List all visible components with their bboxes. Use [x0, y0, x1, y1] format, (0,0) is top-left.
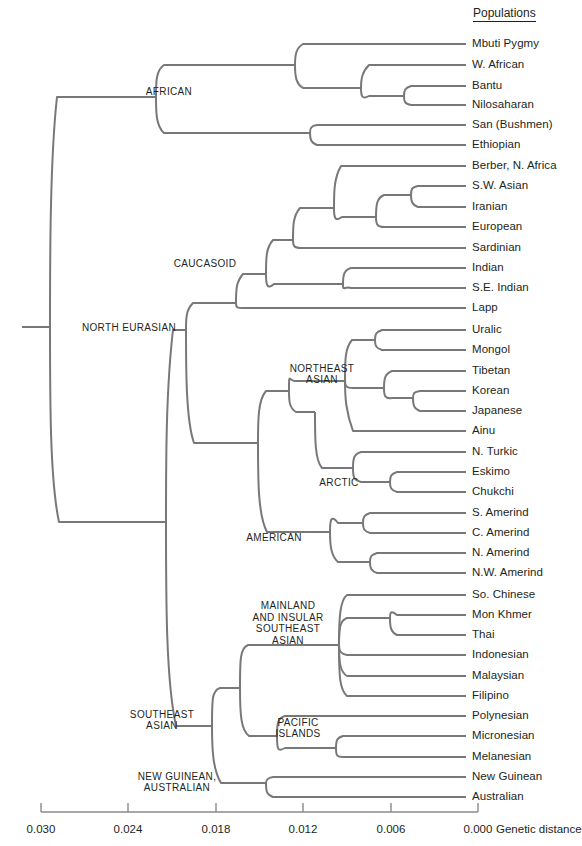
population-label: Tibetan [472, 365, 510, 377]
axis-tick-label: 0.030 [11, 823, 71, 835]
population-label: New Guinean [472, 771, 542, 783]
clade-label-line: ASIAN [82, 720, 242, 732]
population-label: N.W. Amerind [472, 567, 543, 579]
population-label: Uralic [472, 324, 502, 336]
axis-tick-label: 0.006 [361, 823, 421, 835]
population-label: Mongol [472, 344, 510, 356]
clade-label: ARCTIC [259, 477, 419, 489]
population-label: Malaysian [472, 670, 524, 682]
clade-label: NORTHEASTASIAN [242, 363, 402, 386]
clade-label: CAUCASOID [125, 258, 285, 270]
population-label: Sardinian [472, 242, 521, 254]
axis-tick-label: 0.018 [186, 823, 246, 835]
clade-label-line: ASIAN [242, 374, 402, 386]
population-label: So. Chinese [472, 589, 535, 601]
population-label: S.E. Indian [472, 282, 529, 294]
clade-label: AMERICAN [194, 532, 354, 544]
clade-label-line: AFRICAN [89, 86, 249, 98]
clade-label-line: NORTH EURASIAN [49, 322, 209, 334]
population-label: Melanesian [472, 751, 531, 763]
population-label: S. Amerind [472, 507, 529, 519]
axis-caption: Genetic distance [496, 823, 582, 835]
clade-label-line: ARCTIC [259, 477, 419, 489]
clade-label: AFRICAN [89, 86, 249, 98]
clade-label-line: PACIFIC [218, 717, 378, 729]
population-label: Micronesian [472, 730, 535, 742]
clade-label: NEW GUINEAN,AUSTRALIAN [97, 771, 257, 794]
population-label: Nilosaharan [472, 99, 534, 111]
clade-label: SOUTHEASTASIAN [82, 709, 242, 732]
population-label: Polynesian [472, 710, 529, 722]
axis-tick-label: 0.024 [98, 823, 158, 835]
clade-label-line: AND INSULAR [208, 612, 368, 624]
population-label: Filipino [472, 690, 509, 702]
clade-label-line: ASIAN [208, 635, 368, 647]
population-label: S.W. Asian [472, 180, 528, 192]
clade-label-line: SOUTHEAST [208, 623, 368, 635]
clade-label-line: SOUTHEAST [82, 709, 242, 721]
population-label: Australian [472, 791, 524, 803]
population-label: Mon Khmer [472, 609, 532, 621]
clade-label-line: CAUCASOID [125, 258, 285, 270]
clade-label-line: NORTHEAST [242, 363, 402, 375]
population-label: San (Bushmen) [472, 119, 553, 131]
clade-label: NORTH EURASIAN [49, 322, 209, 334]
population-label: Indian [472, 262, 504, 274]
clade-label-line: NEW GUINEAN, [97, 771, 257, 783]
population-label: N. Turkic [472, 446, 518, 458]
populations-column-header: Populations [473, 6, 536, 22]
population-label: W. African [472, 59, 524, 71]
population-label: Indonesian [472, 649, 529, 661]
clade-label-line: MAINLAND [208, 600, 368, 612]
population-label: European [472, 221, 522, 233]
population-label: Bantu [472, 80, 502, 92]
population-label: Chukchi [472, 486, 514, 498]
clade-label: MAINLANDAND INSULARSOUTHEASTASIAN [208, 600, 368, 646]
clade-label-line: AMERICAN [194, 532, 354, 544]
population-label: Mbuti Pygmy [472, 38, 539, 50]
population-label: Ainu [472, 425, 495, 437]
population-label: Ethiopian [472, 139, 520, 151]
population-label: Lapp [472, 302, 498, 314]
population-label: Thai [472, 629, 495, 641]
population-label: Japanese [472, 405, 522, 417]
clade-label-line: ISLANDS [218, 728, 378, 740]
population-label: Eskimo [472, 466, 510, 478]
clade-label-line: AUSTRALIAN [97, 782, 257, 794]
population-label: C. Amerind [472, 527, 529, 539]
population-label: N. Amerind [472, 547, 529, 559]
population-label: Berber, N. Africa [472, 160, 557, 172]
clade-label: PACIFICISLANDS [218, 717, 378, 740]
population-label: Korean [472, 385, 509, 397]
axis-tick-label: 0.012 [273, 823, 333, 835]
population-label: Iranian [472, 201, 508, 213]
